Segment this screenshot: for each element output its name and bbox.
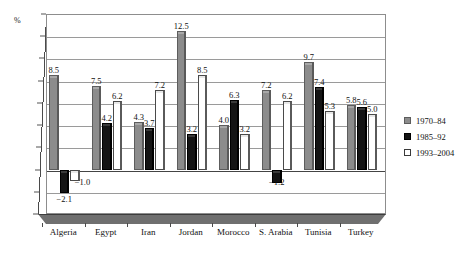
y-axis-line	[38, 213, 39, 214]
gridline	[47, 59, 385, 60]
bar-top-face	[273, 171, 280, 173]
bar	[230, 100, 240, 170]
bar-value-label: −1.2	[264, 177, 290, 187]
bar	[49, 75, 59, 169]
bar-value-label: 6.3	[221, 90, 247, 100]
legend-item[interactable]: 1970–84	[404, 115, 454, 126]
bar-chart: % 14121086420−2−4 AlgeriaEgyptIranJordan…	[0, 0, 474, 267]
bar	[368, 114, 378, 170]
legend-item[interactable]: 1985–92	[404, 131, 454, 142]
bar-top-face	[71, 171, 78, 173]
bar-value-label: 7.5	[83, 76, 109, 86]
bar	[177, 31, 187, 170]
x-axis-tick	[170, 223, 171, 227]
bar	[325, 111, 335, 170]
bar-top-face	[305, 63, 312, 65]
bar-value-label: −2.1	[51, 194, 77, 204]
bar-top-face	[199, 76, 206, 78]
bar-top-face	[93, 87, 100, 89]
bar-value-label: 6.2	[274, 91, 300, 101]
x-axis-category-label: Tunisia	[305, 227, 332, 237]
legend-swatch-icon	[404, 117, 411, 124]
bar	[283, 101, 293, 170]
bar-value-label: 4.2	[94, 113, 120, 123]
bar-value-label: 8.5	[41, 65, 67, 75]
bar-value-label: 7.4	[306, 77, 332, 87]
bar-value-label: 7.2	[253, 80, 279, 90]
x-axis-tick	[42, 223, 43, 227]
x-axis-category-label: Iran	[141, 227, 156, 237]
bar-top-face	[316, 88, 323, 90]
legend-item[interactable]: 1993–2004	[404, 147, 454, 158]
bar	[357, 107, 367, 169]
bar-top-face	[156, 91, 163, 93]
bar-value-label: 7.2	[147, 80, 173, 90]
x-axis-tick	[297, 223, 298, 227]
x-axis-tick	[127, 223, 128, 227]
x-axis-category-label: Turkey	[348, 227, 374, 237]
bar-value-label: 3.7	[136, 118, 162, 128]
legend-label: 1993–2004	[416, 148, 454, 158]
bar-top-face	[114, 102, 121, 104]
bar-value-label: 5.0	[359, 104, 385, 114]
bar-top-face	[220, 126, 227, 128]
bar	[198, 75, 208, 169]
bar-value-label: 3.2	[232, 124, 258, 134]
zero-line	[47, 171, 385, 172]
bar	[262, 90, 272, 170]
bar-top-face	[326, 112, 333, 114]
bar-top-face	[178, 32, 185, 34]
bar-top-face	[50, 76, 57, 78]
gridline	[47, 37, 385, 38]
bar-top-face	[263, 91, 270, 93]
bar-top-face	[146, 129, 153, 131]
x-axis-category-label: S. Arabia	[259, 227, 293, 237]
bar	[102, 123, 112, 170]
legend: 1970–841985–921993–2004	[404, 115, 454, 163]
bar-value-label: 3.2	[179, 124, 205, 134]
bar-top-face	[369, 115, 376, 117]
bar-top-face	[241, 135, 248, 137]
bar-value-label: 12.5	[168, 21, 194, 31]
bar-top-face	[103, 124, 110, 126]
bar-value-label: −1.0	[75, 177, 101, 187]
x-axis-category-label: Algeria	[50, 227, 77, 237]
x-axis-tick	[340, 223, 341, 227]
bar	[219, 125, 229, 169]
bar	[347, 105, 357, 169]
legend-label: 1970–84	[416, 116, 446, 126]
x-axis-category-label: Morocco	[217, 227, 250, 237]
x-axis-tick	[85, 223, 86, 227]
bar	[187, 134, 197, 170]
bar	[92, 86, 102, 169]
bar-top-face	[231, 101, 238, 103]
x-axis-tick	[255, 223, 256, 227]
x-axis-category-label: Egypt	[95, 227, 117, 237]
bar-value-label: 8.5	[189, 65, 215, 75]
bar	[240, 134, 250, 170]
bar	[315, 87, 325, 169]
bar-top-face	[284, 102, 291, 104]
bar-value-label: 6.2	[104, 91, 130, 101]
bar	[134, 122, 144, 170]
x-axis-tick	[212, 223, 213, 227]
bar-top-face	[188, 135, 195, 137]
bar	[113, 101, 123, 170]
gridline	[47, 193, 385, 194]
bar-value-label: 9.7	[296, 52, 322, 62]
legend-swatch-icon	[404, 133, 411, 140]
bar-top-face	[61, 171, 68, 173]
legend-swatch-icon	[404, 149, 411, 156]
y-axis: 14121086420−2−4	[0, 0, 46, 267]
bar	[60, 170, 70, 193]
bar	[155, 90, 165, 170]
legend-label: 1985–92	[416, 132, 446, 142]
bar	[145, 128, 155, 169]
x-axis-category-label: Jordan	[179, 227, 203, 237]
